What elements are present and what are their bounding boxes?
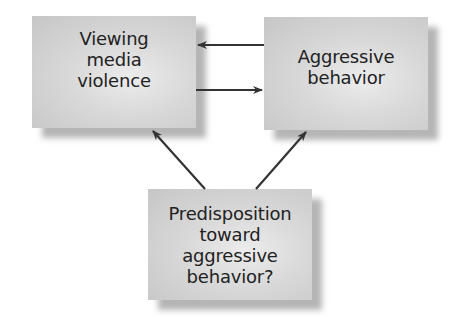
- arrows-layer: [0, 0, 455, 317]
- arrow-predisposition-to-media: [153, 131, 205, 189]
- arrow-predisposition-to-aggression: [256, 132, 306, 189]
